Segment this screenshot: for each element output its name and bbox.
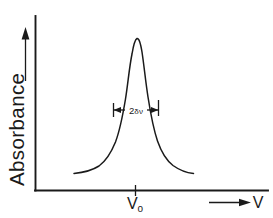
y-axis-label: Absorbance bbox=[5, 73, 28, 186]
x-axis-label: V bbox=[253, 194, 264, 211]
absorbance-line-shape-figure: 2δν Vo V Absorbance bbox=[0, 0, 273, 218]
x-axis-tick-label: Vo bbox=[127, 195, 144, 214]
figure-canvas: 2δν Vo V Absorbance bbox=[0, 0, 273, 218]
right-arrow-icon bbox=[209, 199, 251, 207]
width-marker-label: 2δν bbox=[129, 105, 143, 117]
